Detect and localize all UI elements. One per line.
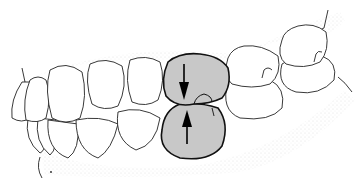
dental-diagram xyxy=(0,0,362,185)
highlighted-upper-tooth xyxy=(163,54,229,105)
upper-incisor-2 xyxy=(25,77,49,122)
upper-molar-2 xyxy=(280,25,327,67)
dot-mark xyxy=(50,171,52,173)
lower-premolar-2 xyxy=(117,110,160,150)
lower-gum-line xyxy=(38,157,42,178)
highlighted-tooth-pair xyxy=(161,54,229,159)
lower-gum-line-right xyxy=(338,77,352,92)
lower-premolar-1 xyxy=(76,118,118,158)
upper-premolar-2 xyxy=(127,57,162,104)
upper-gum-line xyxy=(22,68,25,82)
highlighted-lower-tooth xyxy=(161,104,225,159)
upper-molar-1 xyxy=(226,46,279,87)
upper-premolar-1 xyxy=(87,60,124,108)
upper-canine xyxy=(47,65,84,122)
